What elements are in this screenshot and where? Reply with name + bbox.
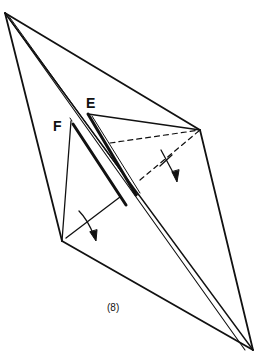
origami-diagram: E F (8) xyxy=(0,0,261,351)
flap-f-label: F xyxy=(53,119,62,133)
fold-diagram-drawing xyxy=(0,0,261,351)
flap-e-label: E xyxy=(86,96,95,110)
flap-e xyxy=(88,114,200,195)
flap-f xyxy=(62,118,126,241)
step-number-label: (8) xyxy=(107,303,119,313)
fold-arrow-left-icon xyxy=(66,197,120,241)
